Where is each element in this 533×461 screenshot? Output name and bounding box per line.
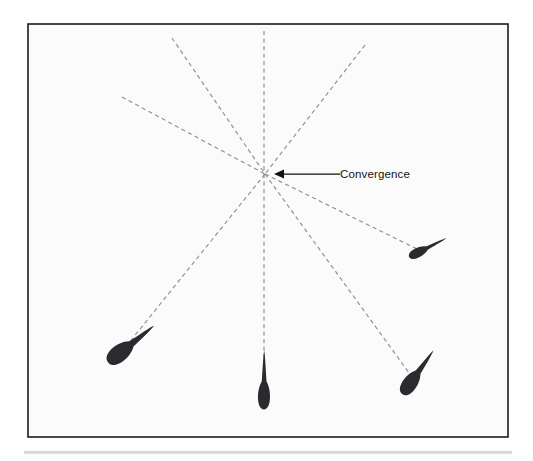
diagram-panel bbox=[28, 24, 508, 437]
footer-rule bbox=[24, 452, 512, 454]
figure-canvas: Convergence bbox=[0, 0, 533, 461]
annotation-label: Convergence bbox=[340, 168, 410, 180]
convergence-figure: Convergence bbox=[0, 0, 533, 461]
